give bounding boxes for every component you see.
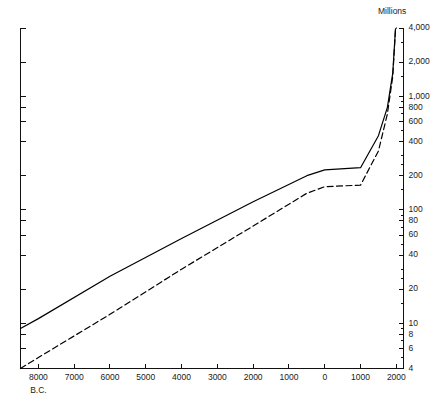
y-tick-label: 800 xyxy=(409,102,423,112)
y-tick-label: 2,000 xyxy=(409,56,431,66)
y-tick-label: 600 xyxy=(409,116,423,126)
y-axis-unit-label: Millions xyxy=(378,6,406,16)
y-tick-label: 6 xyxy=(409,343,414,353)
y-tick-label: 4 xyxy=(409,363,414,373)
y-tick-label: 8 xyxy=(409,329,414,339)
x-tick-label: 7000 xyxy=(65,372,84,382)
y-tick-label: 4,000 xyxy=(409,22,431,32)
y-tick-label: 10 xyxy=(409,318,419,328)
x-tick-label: 0 xyxy=(322,372,327,382)
world-population-chart: 4,0002,0001,0008006004002001008060402010… xyxy=(0,0,442,399)
x-axis-ticks xyxy=(38,364,396,369)
series-lower-estimate xyxy=(21,29,397,369)
y-tick-label: 40 xyxy=(409,249,419,259)
x-tick-label: 2000 xyxy=(387,372,406,382)
axes-group xyxy=(21,28,404,369)
x-tick-label: 4000 xyxy=(172,372,191,382)
y-axis-ticks-left xyxy=(21,28,26,369)
x-tick-label: 1000 xyxy=(351,372,370,382)
x-axis-era-label: B.C. xyxy=(30,385,47,395)
y-tick-label: 20 xyxy=(409,283,419,293)
y-tick-label: 100 xyxy=(409,204,423,214)
series-upper-estimate xyxy=(21,28,397,329)
y-tick-label: 200 xyxy=(409,170,423,180)
y-tick-label: 1,000 xyxy=(409,91,431,101)
y-tick-label: 400 xyxy=(409,136,423,146)
data-series-layer xyxy=(21,28,397,369)
x-tick-label: 2000 xyxy=(244,372,263,382)
x-tick-label: 5000 xyxy=(136,372,155,382)
y-axis-tick-labels: 4,0002,0001,0008006004002001008060402010… xyxy=(409,22,431,373)
x-tick-label: 3000 xyxy=(208,372,227,382)
y-tick-label: 60 xyxy=(409,229,419,239)
x-tick-label: 8000 xyxy=(29,372,48,382)
chart-canvas: 4,0002,0001,0008006004002001008060402010… xyxy=(0,0,442,399)
x-axis-tick-labels: 8000700060005000400030002000100001000200… xyxy=(29,372,406,382)
x-tick-label: 6000 xyxy=(101,372,120,382)
y-axis-ticks-right xyxy=(399,28,404,369)
y-tick-label: 80 xyxy=(409,215,419,225)
x-tick-label: 1000 xyxy=(279,372,298,382)
